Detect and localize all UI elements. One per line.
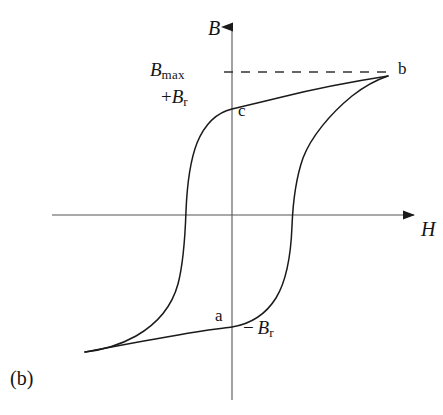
ascending-branch-curve [85, 76, 388, 352]
positive-remanence-sign: + [161, 86, 172, 107]
point-label-b: b [398, 60, 407, 77]
bmax-label: Bmax [150, 60, 185, 79]
point-label-a: a [215, 307, 223, 324]
negative-remanence-subscript: r [269, 325, 274, 340]
b-axis-label: B [208, 18, 220, 38]
descending-branch-curve [85, 76, 388, 352]
bmax-subscript: max [162, 67, 185, 82]
hysteresis-plot-svg [0, 0, 443, 415]
positive-remanence-symbol: B [172, 86, 184, 107]
positive-remanence-label: +Br [161, 87, 188, 106]
hysteresis-figure: B H Bmax +Br − Br b c a (b) [0, 0, 443, 415]
h-axis-label: H [421, 219, 435, 239]
negative-remanence-label: − Br [243, 318, 274, 337]
negative-remanence-symbol: B [258, 317, 270, 338]
bmax-symbol: B [150, 59, 162, 80]
figure-caption: (b) [10, 368, 33, 388]
negative-remanence-sign: − [243, 317, 258, 338]
positive-remanence-subscript: r [183, 94, 188, 109]
point-label-c: c [238, 102, 246, 119]
